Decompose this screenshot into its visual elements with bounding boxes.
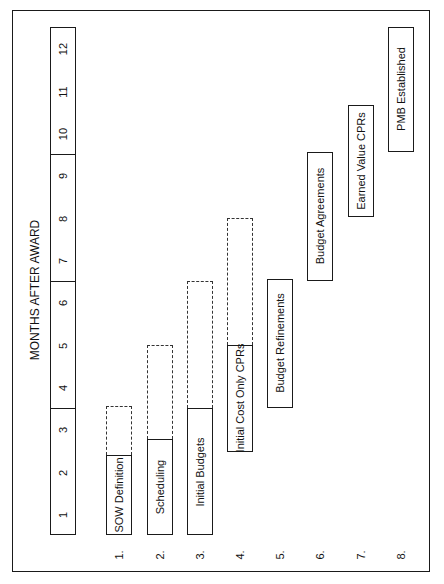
axis-title-box: MONTHS AFTER AWARD xyxy=(24,230,46,350)
activity-label: PMB Established xyxy=(395,48,407,132)
month-label: 1 xyxy=(57,512,69,518)
activity-bar: SOW Definition xyxy=(106,455,132,535)
row-number: 4. xyxy=(234,550,246,559)
month-label: 12 xyxy=(57,43,69,55)
month-label: 2 xyxy=(57,469,69,475)
month-label: 11 xyxy=(57,86,69,97)
month-label: 6 xyxy=(57,300,69,306)
activity-label: Initial Cost Only CPRs xyxy=(234,344,246,453)
month-label: 7 xyxy=(57,258,69,264)
activity-bar: Scheduling xyxy=(147,439,173,535)
activity-label: Scheduling xyxy=(154,460,166,514)
activity-bar: Budget Refinements xyxy=(267,279,293,408)
activity-label: Initial Budgets xyxy=(194,437,206,506)
row-number-box: 2. xyxy=(147,545,173,565)
activity-bar: Initial Budgets xyxy=(187,408,213,535)
activity-bar: Earned Value CPRs xyxy=(348,105,374,217)
month-label: 5 xyxy=(57,342,69,348)
row-number: 7. xyxy=(355,550,367,559)
projected-extension xyxy=(147,345,173,439)
activity-label: SOW Definition xyxy=(113,457,125,532)
row-number: 8. xyxy=(395,550,407,559)
activity-bar: PMB Established xyxy=(388,27,414,152)
activity-bar: Budget Agreements xyxy=(307,152,333,281)
row-number-box: 5. xyxy=(267,545,293,565)
row-number-box: 4. xyxy=(227,545,253,565)
month-label: 3 xyxy=(57,427,69,433)
month-timeline-bar: 123456789101112 xyxy=(50,27,76,535)
row-number: 3. xyxy=(194,550,206,559)
row-number-box: 8. xyxy=(388,545,414,565)
row-number: 5. xyxy=(274,550,286,559)
row-number: 1. xyxy=(113,550,125,559)
projected-extension xyxy=(227,218,253,345)
row-number-box: 1. xyxy=(106,545,132,565)
row-number: 6. xyxy=(314,550,326,559)
activity-label: Budget Refinements xyxy=(274,294,286,394)
activity-label: Earned Value CPRs xyxy=(355,113,367,211)
projected-extension xyxy=(187,281,213,408)
month-label: 9 xyxy=(57,173,69,179)
month-label: 10 xyxy=(57,128,69,140)
activity-label: Budget Agreements xyxy=(314,168,326,265)
row-number-box: 6. xyxy=(307,545,333,565)
month-group-divider xyxy=(51,408,75,409)
month-label: 8 xyxy=(57,215,69,221)
month-group-divider xyxy=(51,281,75,282)
month-group-divider xyxy=(51,154,75,155)
row-number-box: 3. xyxy=(187,545,213,565)
activity-bar: Initial Cost Only CPRs xyxy=(227,345,253,453)
projected-extension xyxy=(106,406,132,455)
row-number-box: 7. xyxy=(348,545,374,565)
month-label: 4 xyxy=(57,385,69,391)
axis-title: MONTHS AFTER AWARD xyxy=(28,220,42,360)
row-number: 2. xyxy=(154,550,166,559)
